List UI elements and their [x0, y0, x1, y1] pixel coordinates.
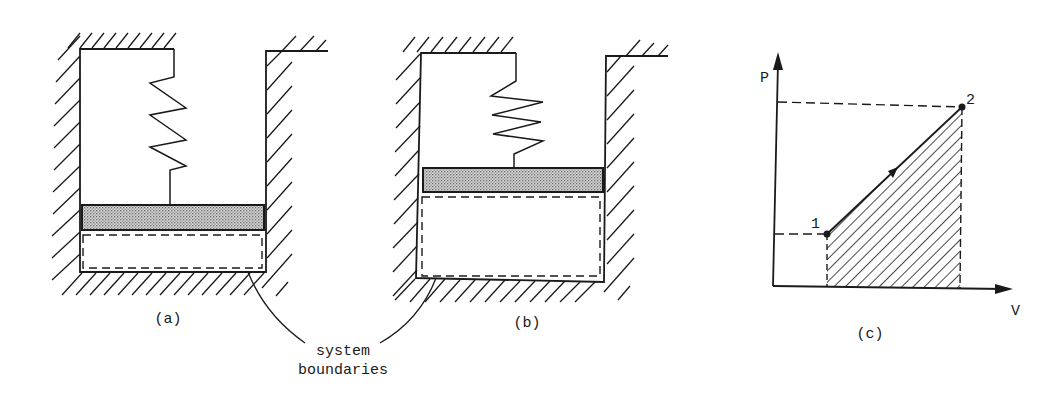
- x-axis-label: V: [1011, 303, 1020, 320]
- caption-c: (c): [856, 326, 883, 343]
- hatch-top-a: [68, 33, 176, 48]
- spring-icon-a: [150, 49, 186, 205]
- hatch-top-b: [403, 37, 513, 52]
- state-2-label: 2: [966, 92, 975, 109]
- work-area-hatch: [827, 107, 962, 288]
- state-1-point: [824, 231, 831, 238]
- y-axis-label: P: [760, 70, 769, 87]
- y-axis-arrow-icon: [773, 52, 783, 70]
- p2-guide: [778, 102, 962, 107]
- state-2-point: [959, 104, 966, 111]
- system-boundary-a: [83, 235, 262, 268]
- annotation-boundaries: boundaries: [298, 362, 388, 379]
- panel-c-pv-diagram: [773, 52, 1013, 294]
- caption-b: (b): [513, 315, 540, 332]
- panel-b: [393, 37, 668, 302]
- state-1-label: 1: [811, 216, 820, 233]
- spring-icon-b: [491, 53, 543, 168]
- y-axis: [773, 62, 778, 286]
- piston-b: [423, 168, 603, 192]
- hatch-bottom-a: [62, 273, 264, 295]
- leader-line-a: [248, 272, 305, 343]
- annotation-system: system: [316, 343, 370, 360]
- hatch-right-b: [604, 40, 668, 300]
- leader-line-b: [380, 278, 436, 343]
- cylinder-wall-a: [80, 49, 328, 272]
- system-boundary-b: [422, 197, 600, 276]
- x-axis-arrow-icon: [995, 284, 1013, 294]
- panel-a: [52, 33, 328, 296]
- piston-a: [82, 205, 264, 230]
- diagram-canvas: (a): [0, 0, 1060, 401]
- caption-a: (a): [154, 311, 181, 328]
- system-boundaries-leaders: [248, 272, 436, 343]
- hatch-bottom-b: [395, 279, 595, 302]
- hatch-right-a: [262, 36, 326, 296]
- hatch-left-a: [52, 36, 80, 280]
